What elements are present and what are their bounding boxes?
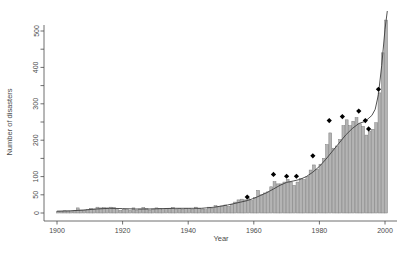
- plot-canvas: 190019201940196019802000 050100200300400…: [0, 0, 420, 262]
- el-nino-diamond-1970: [284, 174, 289, 179]
- el-nino-diamond-1983: [327, 118, 332, 123]
- bar-year-1944: [201, 209, 204, 213]
- bar-year-1955: [237, 200, 240, 213]
- y-tick-label-500: 500: [33, 25, 40, 37]
- bar-year-1974: [299, 178, 302, 213]
- el-nino-diamond-1995: [366, 126, 371, 131]
- y-tick-label-300: 300: [33, 98, 40, 110]
- bar-year-1993: [362, 126, 365, 213]
- x-tick-label-1940: 1940: [180, 227, 196, 234]
- bar-year-1938: [181, 209, 184, 213]
- y-tick-label-0: 0: [33, 211, 40, 215]
- bar-year-1982: [326, 145, 329, 213]
- bar-year-1981: [322, 158, 325, 213]
- bar-year-1971: [289, 182, 292, 213]
- el-nino-diamond-1992: [356, 108, 361, 113]
- el-nino-diamond-1978: [310, 153, 315, 158]
- bar-year-1928: [148, 210, 151, 213]
- bar-year-1937: [178, 209, 181, 213]
- bar-year-1972: [293, 185, 296, 213]
- y-axis-title: Number of disasters: [5, 88, 14, 155]
- y-tick-label-400: 400: [33, 61, 40, 73]
- bar-year-1919: [119, 210, 122, 213]
- y-tick-label-100: 100: [33, 171, 40, 183]
- bar-year-1960: [253, 198, 256, 213]
- bar-year-1934: [168, 208, 171, 213]
- bar-year-1963: [263, 193, 266, 213]
- bar-year-1918: [116, 210, 119, 213]
- bar-year-1961: [257, 190, 260, 213]
- bar-year-1996: [371, 129, 374, 213]
- bar-year-1949: [217, 207, 220, 213]
- bar-year-1921: [125, 210, 128, 213]
- bar-year-1905: [73, 211, 76, 213]
- bar-year-1904: [70, 212, 73, 213]
- x-tick-label-2000: 2000: [377, 227, 393, 234]
- bar-year-1940: [188, 209, 191, 213]
- bar-year-1991: [355, 118, 358, 213]
- y-axis-ticks: 050100200300400500: [33, 25, 45, 215]
- el-nino-diamond-1987: [340, 114, 345, 119]
- bar-year-1968: [280, 184, 283, 213]
- bar-year-1920: [122, 209, 125, 213]
- bar-year-1952: [227, 206, 230, 213]
- bar-year-1922: [129, 210, 132, 213]
- bar-year-1975: [303, 180, 306, 213]
- x-axis-ticks: 190019201940196019802000: [49, 221, 393, 234]
- bar-year-1926: [142, 208, 145, 213]
- y-tick-label-200: 200: [33, 134, 40, 146]
- bar-year-1951: [224, 205, 227, 213]
- bar-year-1945: [204, 210, 207, 213]
- bar-year-1903: [66, 211, 69, 213]
- bar-year-1979: [316, 169, 319, 213]
- bar-year-1990: [352, 121, 355, 213]
- el-nino-diamond-1966: [271, 172, 276, 177]
- bar-year-1933: [165, 209, 168, 213]
- bar-year-1967: [276, 184, 279, 213]
- el-nino-diamond-1973: [294, 174, 299, 179]
- bar-year-1957: [244, 200, 247, 213]
- x-tick-label-1920: 1920: [115, 227, 131, 234]
- bar-year-1932: [162, 210, 165, 213]
- bar-year-1995: [368, 131, 371, 213]
- x-tick-label-1900: 1900: [49, 227, 65, 234]
- bar-year-1985: [335, 146, 338, 213]
- bar-year-1997: [375, 123, 378, 213]
- bar-year-1989: [349, 126, 352, 213]
- bar-year-1994: [365, 135, 368, 213]
- disaster-frequency-chart: 190019201940196019802000 050100200300400…: [0, 0, 420, 262]
- y-tick-label-50: 50: [33, 191, 40, 199]
- bar-year-1947: [211, 208, 214, 213]
- el-nino-diamond-1998: [376, 87, 381, 92]
- bar-year-1959: [250, 201, 253, 213]
- bar-year-1976: [306, 177, 309, 213]
- bar-year-1986: [339, 139, 342, 213]
- bar-year-1980: [319, 164, 322, 213]
- bar-year-1939: [185, 208, 188, 213]
- bar-year-1992: [358, 124, 361, 213]
- bar-year-1999: [381, 53, 384, 213]
- bar-year-1977: [309, 170, 312, 213]
- bar-year-1924: [135, 210, 138, 213]
- bar-year-1964: [267, 192, 270, 213]
- bar-year-1962: [260, 195, 263, 213]
- bar-year-1912: [96, 207, 99, 213]
- bar-year-1950: [221, 206, 224, 213]
- bar-series: [57, 20, 388, 213]
- x-tick-label-1980: 1980: [312, 227, 328, 234]
- bar-year-1970: [286, 180, 289, 213]
- bar-year-1941: [191, 209, 194, 213]
- bar-year-1931: [158, 209, 161, 213]
- x-axis-title: Year: [213, 234, 229, 243]
- bar-year-1943: [198, 208, 201, 213]
- bar-year-1936: [175, 209, 178, 213]
- x-tick-label-1960: 1960: [246, 227, 262, 234]
- bar-year-1969: [283, 182, 286, 213]
- bar-year-1984: [332, 148, 335, 213]
- bar-year-1973: [296, 182, 299, 213]
- bar-year-1929: [152, 209, 155, 213]
- bar-year-1953: [230, 204, 233, 213]
- bar-year-1983: [329, 133, 332, 213]
- bar-year-1998: [378, 93, 381, 213]
- bar-year-2000: [385, 20, 388, 213]
